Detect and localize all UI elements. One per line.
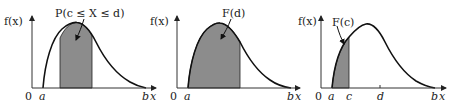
origin-label: 0 bbox=[170, 90, 177, 103]
x-axis-label: x bbox=[150, 90, 157, 103]
origin-label: 0 bbox=[315, 90, 322, 103]
shaded-area-a-to-c bbox=[332, 37, 349, 88]
density-curve bbox=[43, 22, 146, 88]
panel-probability-between-c-d: f(x) P(c ≤ X ≤ d) 0 a b x bbox=[4, 7, 157, 103]
panel-cdf-at-c: f(x) F(c) 0 a c d b x bbox=[298, 15, 446, 103]
tick-label-b: b bbox=[431, 90, 438, 103]
panel-cdf-at-d: f(x) F(d) 0 a b x bbox=[150, 7, 302, 103]
tick-label-c: c bbox=[346, 90, 352, 103]
y-axis-label: f(x) bbox=[150, 15, 169, 28]
tick-label-b: b bbox=[142, 90, 149, 103]
tick-label-a: a bbox=[328, 90, 335, 103]
tick-label-b: b bbox=[287, 90, 294, 103]
tick-label-a: a bbox=[184, 90, 191, 103]
origin-label: 0 bbox=[25, 90, 32, 103]
x-axis-label: x bbox=[295, 90, 302, 103]
tick-label-d: d bbox=[377, 90, 384, 103]
y-axis-label: f(x) bbox=[4, 15, 23, 28]
annotation-label: F(d) bbox=[222, 7, 245, 20]
y-axis-label: f(x) bbox=[298, 15, 317, 28]
annotation-label: P(c ≤ X ≤ d) bbox=[55, 7, 124, 20]
x-axis-label: x bbox=[439, 90, 446, 103]
annotation-label: F(c) bbox=[332, 16, 354, 29]
shaded-area-c-to-d bbox=[60, 22, 92, 88]
tick-label-a: a bbox=[39, 90, 46, 103]
probability-density-diagram: f(x) P(c ≤ X ≤ d) 0 a b x f(x) F(d) 0 a … bbox=[0, 0, 450, 109]
shaded-area-a-to-d bbox=[188, 23, 240, 88]
